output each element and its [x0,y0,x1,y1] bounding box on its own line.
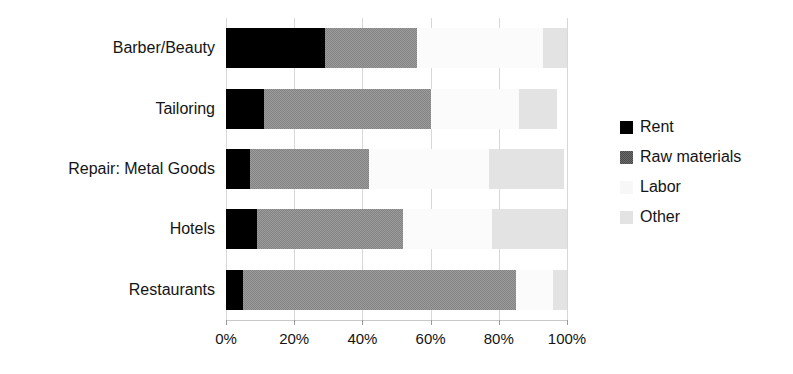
bar-row [226,89,567,129]
bar-segment-other [492,209,567,249]
category-label: Tailoring [155,101,215,117]
x-tick-label: 100% [548,330,586,347]
legend-label: Other [640,209,680,225]
bar-segment-other [489,149,564,189]
legend-item-rent[interactable]: Rent [620,112,788,142]
tick-20 [294,320,295,325]
category-label: Restaurants [129,282,215,298]
legend-label: Rent [640,119,674,135]
x-tick-label: 80% [484,330,514,347]
bar-segment-rent [226,209,257,249]
x-axis-line [226,320,567,321]
plot-area [226,18,567,320]
x-tick-label: 20% [279,330,309,347]
bar-row [226,28,567,68]
bar-row [226,209,567,249]
legend-item-labor[interactable]: Labor [620,172,788,202]
bar-segment-raw [264,89,431,129]
bar-segment-other [519,89,557,129]
bar-segment-rent [226,28,325,68]
legend-label: Raw materials [640,149,741,165]
bar-segment-other [543,28,567,68]
legend-swatch-other-icon [620,211,633,224]
legend-item-other[interactable]: Other [620,202,788,232]
tick-100 [567,320,568,325]
bar-segment-raw [250,149,369,189]
x-tick-label: 60% [416,330,446,347]
stacked-bar-chart: Barber/BeautyTailoringRepair: Metal Good… [0,0,793,374]
bar-segment-labor [431,89,520,129]
tick-80 [499,320,500,325]
bar-segment-rent [226,270,243,310]
bar-segment-labor [516,270,554,310]
x-tick-label: 40% [347,330,377,347]
bar-segment-labor [417,28,543,68]
legend-swatch-labor-icon [620,181,633,194]
bar-segment-rent [226,89,264,129]
bar-segment-raw [257,209,404,249]
bar-segment-rent [226,149,250,189]
category-label: Barber/Beauty [113,40,215,56]
legend-swatch-rent-icon [620,121,633,134]
chart-legend: RentRaw materialsLaborOther [620,112,788,232]
bar-segment-raw [243,270,516,310]
category-label: Repair: Metal Goods [68,161,215,177]
bar-segment-other [553,270,567,310]
tick-60 [431,320,432,325]
category-label: Hotels [170,221,215,237]
bar-segment-labor [369,149,488,189]
x-tick-label: 0% [215,330,237,347]
bar-segment-raw [325,28,417,68]
gridline-100 [567,18,568,320]
legend-swatch-raw-icon [620,151,633,164]
bar-row [226,149,567,189]
bar-segment-labor [403,209,492,249]
bar-row [226,270,567,310]
tick-40 [362,320,363,325]
legend-label: Labor [640,179,681,195]
legend-item-raw[interactable]: Raw materials [620,142,788,172]
tick-0 [226,320,227,325]
